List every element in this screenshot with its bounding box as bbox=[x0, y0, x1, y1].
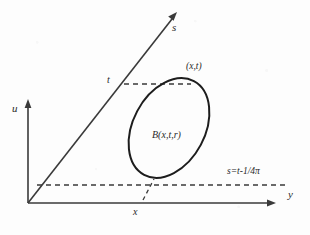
diagram-canvas bbox=[0, 0, 310, 235]
x-tick-label: x bbox=[133, 207, 137, 217]
y-axis-label: y bbox=[288, 189, 293, 200]
u-axis-label: u bbox=[12, 103, 18, 114]
point-xt-label: (x,t) bbox=[186, 62, 202, 72]
t-tick-label: t bbox=[107, 75, 110, 85]
u-axis-group bbox=[25, 99, 32, 203]
u-axis-arrowhead bbox=[25, 99, 32, 108]
s-equation-label: s=t-1/4π bbox=[227, 167, 260, 177]
y-axis-group bbox=[28, 200, 276, 207]
s-axis-arrowhead bbox=[168, 12, 177, 21]
s-axis-line bbox=[28, 19, 172, 203]
s-axis-label: s bbox=[172, 22, 176, 33]
figure-container: u y s (x,t) B(x,t,r) s=t-1/4π t x bbox=[0, 0, 310, 235]
ball-region-label: B(x,t,r) bbox=[152, 130, 181, 140]
s-axis-group bbox=[28, 12, 177, 203]
x-vertical-dashed-line bbox=[143, 179, 154, 200]
y-axis-arrowhead bbox=[267, 200, 276, 207]
